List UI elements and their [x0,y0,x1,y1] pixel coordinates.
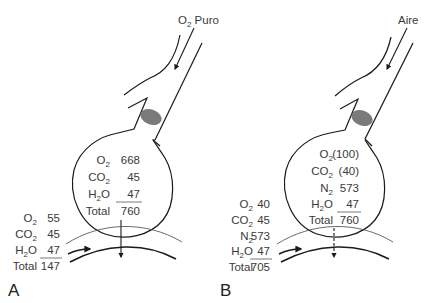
inflow-arrow-icon [175,28,194,69]
alv-value-o2-b: (100) [332,148,359,160]
capillary-wall-outer-a [66,226,182,244]
panel-a: O2 Puro O2 668 CO2 45 H2O 47 Total 760 [8,14,219,300]
blood-value-co2-a: 45 [47,228,60,240]
diagram-canvas: O2 Puro O2 668 CO2 45 H2O 47 Total 760 [0,0,429,303]
alv-value-h2o-a: 47 [127,188,140,200]
blood-total-label-b: Total [229,261,253,273]
blood-value-h2o-a: 47 [47,244,60,256]
airway-a [118,35,202,140]
blood-total-label-a: Total [13,260,37,272]
blood-gas-h2o-a: H2O [15,244,37,259]
inflow-arrow-icon [387,28,407,69]
blood-value-o2-b: 40 [257,198,270,210]
blood-value-o2-a: 55 [47,212,60,224]
alv-value-o2-a: 668 [121,154,140,166]
blood-gas-h2o-b: H2O [231,245,253,260]
alv-value-co2-b: (40) [339,165,360,177]
alv-gas-co2-b: CO2 [311,165,333,180]
alv-gas-h2o-b: H2O [311,198,333,213]
blood-gas-o2-b: O2 [240,198,254,213]
panel-label-a: A [8,281,20,300]
blood-flow-arrow-a [68,249,90,254]
alveolar-gas-table-a: O2 668 CO2 45 H2O 47 Total 760 [86,154,142,217]
blood-gas-o2-a: O2 [24,212,38,227]
airway-b [330,37,413,139]
alv-gas-n2-b: N2 [320,182,333,197]
alv-total-value-b: 760 [340,214,359,226]
alv-total-value-a: 760 [121,205,140,217]
blood-value-h2o-b: 47 [257,245,270,257]
panel-label-b: B [220,281,231,300]
alv-total-label-b: Total [309,214,333,226]
blood-total-value-b: 705 [251,261,270,273]
blood-gas-co2-b: CO2 [231,214,253,229]
blood-gas-table-a: O2 55 CO2 45 H2O 47 Total 147 [13,212,62,272]
alv-value-n2-b: 573 [340,182,359,194]
alv-value-co2-a: 45 [127,171,140,183]
alv-value-h2o-b: 47 [346,198,359,210]
capillary-wall-outer-b [277,226,393,244]
alveolus-a [72,133,172,237]
blood-gas-table-b: O2 40 CO2 45 N2 573 H2O 47 Total 705 [229,198,272,273]
source-label-b: Aire [398,14,418,26]
alv-gas-o2-a: O2 [97,154,111,169]
blood-value-n2-b: 573 [251,230,270,242]
alv-gas-h2o-a: H2O [88,188,110,203]
alveolar-gas-table-b: O2 (100) CO2 (40) N2 573 H2O 47 Total 76… [309,148,361,226]
blood-flow-arrow-b [279,249,301,254]
alv-total-label-a: Total [86,205,110,217]
blood-gas-co2-a: CO2 [15,228,37,243]
blood-value-co2-b: 45 [257,214,270,226]
source-label-a: O2 Puro [178,14,219,29]
alv-gas-co2-a: CO2 [88,171,110,186]
blood-total-value-a: 147 [41,260,60,272]
panel-b: Aire O2 (100) CO2 (40) N2 573 H2O 47 Tot… [220,14,418,300]
